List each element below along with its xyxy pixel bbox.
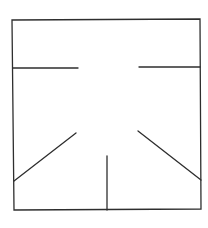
background [0,0,208,228]
diagram-canvas [0,0,208,228]
